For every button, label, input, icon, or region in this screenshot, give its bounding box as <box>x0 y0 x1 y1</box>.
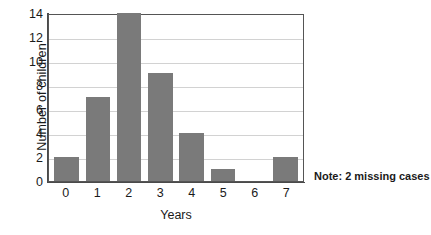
plot-area <box>48 14 304 182</box>
bar-slot <box>207 15 238 181</box>
x-tick-label: 7 <box>271 186 303 200</box>
bar-slot <box>176 15 207 181</box>
x-tick-label: 6 <box>239 186 271 200</box>
bar <box>86 97 110 181</box>
bar-slot <box>82 15 113 181</box>
y-tick-label: 10 <box>14 56 43 69</box>
bar-slot <box>114 15 145 181</box>
bar-slot <box>270 15 301 181</box>
y-tick-label: 8 <box>14 80 43 93</box>
bar <box>211 169 235 181</box>
bar <box>179 133 203 181</box>
bar <box>54 157 78 181</box>
bar-slot <box>239 15 270 181</box>
y-tick-label: 12 <box>14 32 43 45</box>
x-tick-label: 4 <box>176 186 208 200</box>
y-axis-tick-labels: 02468101214 <box>14 14 43 182</box>
x-axis-title: Years <box>48 208 304 222</box>
y-tick-label: 2 <box>14 152 43 165</box>
chart-note: Note: 2 missing cases <box>314 170 430 182</box>
x-tick-label: 5 <box>208 186 240 200</box>
x-axis-tick-labels: 01234567 <box>48 186 304 200</box>
bar-series <box>49 15 303 181</box>
bar-chart-figure: Number of children 02468101214 01234567 … <box>0 0 431 235</box>
bar <box>148 73 172 181</box>
bar-slot <box>51 15 82 181</box>
x-tick-label: 1 <box>82 186 114 200</box>
bar <box>273 157 297 181</box>
x-tick-label: 3 <box>145 186 177 200</box>
bar <box>117 13 141 181</box>
y-tick-label: 4 <box>14 128 43 141</box>
y-tick-label: 0 <box>14 176 43 189</box>
x-tick-label: 0 <box>50 186 82 200</box>
y-tick-label: 14 <box>14 8 43 21</box>
bar-slot <box>145 15 176 181</box>
x-tick-label: 2 <box>113 186 145 200</box>
y-tick-label: 6 <box>14 104 43 117</box>
